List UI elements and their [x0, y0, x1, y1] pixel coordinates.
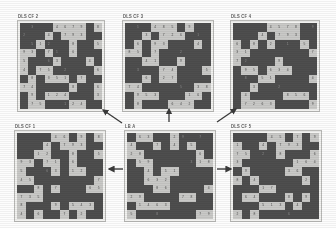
grid-cell — [26, 202, 35, 211]
grid-cell — [161, 133, 170, 142]
grid-cell: 4 — [267, 23, 275, 32]
grid-cell: 4 — [77, 202, 86, 211]
grid-cell — [134, 75, 143, 84]
grid-cell — [69, 176, 78, 185]
grid-cell — [144, 150, 153, 159]
grid-cell: 6 — [94, 66, 102, 75]
grid-cell — [43, 210, 52, 219]
grid-cell — [142, 66, 151, 75]
grid-cell — [179, 142, 188, 151]
grid-cell — [60, 202, 69, 211]
grid-cell — [302, 142, 311, 151]
grid-cell: 9 — [309, 100, 317, 109]
grid-cell — [168, 83, 177, 92]
grid-cell: 6 — [196, 150, 205, 159]
grid-cell: 1 — [196, 159, 205, 168]
grid-cell: 4 — [168, 66, 177, 75]
grid-cell — [153, 159, 162, 168]
grid-cell — [136, 176, 145, 185]
grid-cell — [170, 202, 179, 211]
grid-cell — [26, 210, 35, 219]
grid-cell: 3 — [293, 142, 302, 151]
grid-cell: 4 — [309, 75, 317, 84]
grid-cell: 2 — [177, 49, 186, 58]
grid-cell: 4 — [250, 193, 259, 202]
grid-cell — [250, 75, 258, 84]
grid-cell: 5 — [136, 159, 145, 168]
grid-cell — [86, 23, 94, 32]
grid-cell — [61, 83, 69, 92]
panel-label-lb-a: LB A — [124, 123, 216, 129]
grid-cell — [43, 202, 52, 211]
grid-cell — [185, 83, 194, 92]
grid-cell: 6 — [300, 92, 308, 101]
grid-cell — [17, 185, 26, 194]
grid-cell: 1 — [267, 202, 276, 211]
grid-cell — [142, 49, 151, 58]
grid-cell: 7 — [283, 23, 291, 32]
grid-cell: 6 — [136, 133, 145, 142]
grid-cell — [293, 185, 302, 194]
grid-cell — [127, 159, 136, 168]
grid-cell — [36, 23, 44, 32]
grid-cell — [241, 23, 249, 32]
grid-cell: 3 — [26, 193, 35, 202]
grid-cell: 7 — [77, 75, 85, 84]
grid-cell — [187, 150, 196, 159]
grid-cell — [267, 159, 276, 168]
grid-cell: 1 — [293, 159, 302, 168]
grid-cell: 3 — [161, 202, 170, 211]
grid-cell — [292, 66, 300, 75]
grid-cell — [86, 40, 94, 49]
grid-cell: 8 — [233, 176, 242, 185]
grid-cell — [293, 176, 302, 185]
grid-cell — [194, 100, 203, 109]
grid-cell — [310, 176, 319, 185]
grid-cell — [259, 133, 268, 142]
grid-cell — [292, 49, 300, 58]
arrow-to-dls-cf-3 — [164, 106, 174, 123]
grid-cell — [241, 32, 249, 41]
grid-cell: 1 — [51, 159, 60, 168]
grid-cell — [242, 185, 251, 194]
grid-cell — [161, 150, 170, 159]
grid-cell: 1 — [259, 185, 268, 194]
grid-cell — [310, 210, 319, 219]
grid-cell — [61, 49, 69, 58]
grid-cell: 5 — [94, 40, 102, 49]
grid-cell — [250, 133, 259, 142]
grid-cell — [77, 193, 86, 202]
grid-cell — [53, 83, 61, 92]
grid-cell — [202, 57, 211, 66]
grid-cell — [204, 150, 213, 159]
grid-cell: 5 — [177, 83, 186, 92]
grid-frame-dls-cf-3: 1485937261693485724193745627745389531686… — [122, 20, 214, 112]
grid-cell: 5 — [292, 92, 300, 101]
grid-cell — [61, 57, 69, 66]
grid-cell — [258, 92, 266, 101]
grid-cell: 7 — [159, 32, 168, 41]
grid-cell: 7 — [293, 133, 302, 142]
grid-cell — [300, 100, 308, 109]
grid-cell: 9 — [144, 159, 153, 168]
grid-cell — [26, 150, 35, 159]
grid-cell: 3 — [233, 159, 242, 168]
grid-cell: 4 — [17, 176, 26, 185]
grid-frame-dls-cf-4: 4578947936821531772995634851432485672639 — [230, 20, 320, 112]
grid-cell — [275, 49, 283, 58]
grid-cell — [28, 66, 36, 75]
grid-cell — [285, 150, 294, 159]
grid-cell — [302, 150, 311, 159]
grid-cell — [250, 159, 259, 168]
grid-cell: 5 — [242, 150, 251, 159]
grid-cell: 1 — [267, 75, 275, 84]
grid-cell: 2 — [170, 133, 179, 142]
grid-cell — [151, 100, 160, 109]
grid-cell — [51, 176, 60, 185]
grid-cell: 2 — [168, 32, 177, 41]
grid-cell: 4 — [151, 23, 160, 32]
grid-cell: 5 — [187, 142, 196, 151]
grid-cell: 3 — [187, 159, 196, 168]
panel-dls-cf-2: DLS CF 234679824793512859371656344752683… — [17, 14, 105, 112]
grid-cell — [159, 83, 168, 92]
